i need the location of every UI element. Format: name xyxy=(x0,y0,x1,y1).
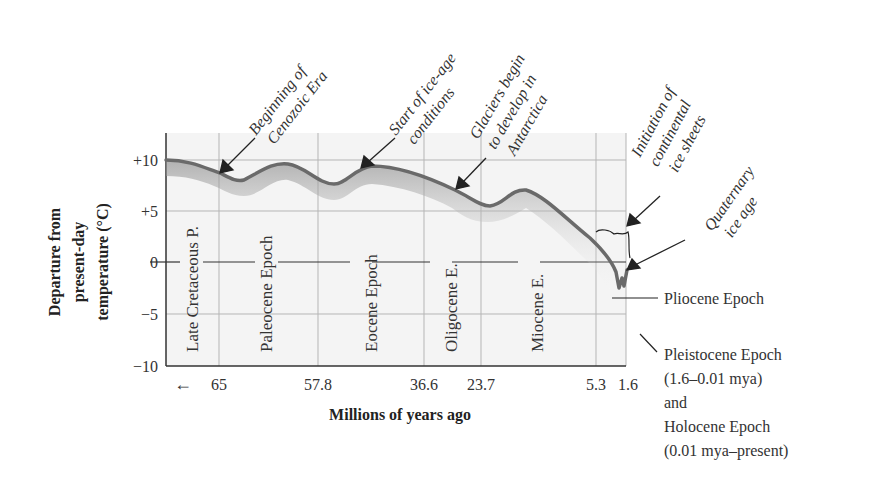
epoch-paleocene: Paleocene Epoch xyxy=(257,235,276,352)
epoch-eocene: Eocene Epoch xyxy=(362,254,381,352)
x-tick-65: 65 xyxy=(211,376,227,393)
temperature-chart: +10 +5 0 −5 −10 Departure from present-d… xyxy=(0,0,874,481)
svg-text:(0.01 mya–present): (0.01 mya–present) xyxy=(664,442,788,460)
y-tick-minus5: −5 xyxy=(141,306,158,323)
svg-text:Departure from: Departure from xyxy=(46,207,64,316)
x-tick-5-3: 5.3 xyxy=(586,376,606,393)
svg-text:present-day: present-day xyxy=(70,222,88,303)
epoch-oligocene: Oligocene E. xyxy=(442,263,461,352)
x-tick-labels: ← 65 57.8 36.6 23.7 5.3 1.6 xyxy=(174,374,638,394)
left-arrow-icon: ← xyxy=(174,374,192,394)
svg-text:(1.6–0.01 mya): (1.6–0.01 mya) xyxy=(664,370,762,388)
x-tick-36-6: 36.6 xyxy=(410,376,438,393)
x-tick-1-6: 1.6 xyxy=(618,376,638,393)
annotation-continental-ice: Initiation of continental ice sheets xyxy=(627,82,715,179)
x-tick-57-8: 57.8 xyxy=(304,376,332,393)
pleistocene-label: Pleistocene Epoch (1.6–0.01 mya) and Hol… xyxy=(664,346,788,460)
pliocene-label: Pliocene Epoch xyxy=(664,290,764,308)
x-axis-label: Millions of years ago xyxy=(329,406,471,424)
svg-text:and: and xyxy=(664,394,687,411)
y-tick-0: 0 xyxy=(150,254,158,271)
epoch-late-cretaceous: Late Cretaceous P. xyxy=(183,226,202,352)
y-axis-label: Departure from present-day temperature (… xyxy=(46,203,112,321)
y-tick-minus10: −10 xyxy=(133,358,158,375)
epoch-miocene: Miocene E. xyxy=(528,274,547,352)
svg-text:Pleistocene Epoch: Pleistocene Epoch xyxy=(664,346,782,364)
annotation-quaternary: Quaternary ice age xyxy=(701,162,775,246)
y-tick-10: +10 xyxy=(133,152,158,169)
y-tick-labels: +10 +5 0 −5 −10 xyxy=(133,152,158,375)
svg-text:Holocene Epoch: Holocene Epoch xyxy=(664,418,770,436)
svg-text:temperature (°C): temperature (°C) xyxy=(94,203,112,321)
pleistocene-leader-line xyxy=(640,334,657,352)
arrow-head-icon xyxy=(627,259,640,270)
x-tick-23-7: 23.7 xyxy=(467,376,495,393)
y-tick-5: +5 xyxy=(141,203,158,220)
